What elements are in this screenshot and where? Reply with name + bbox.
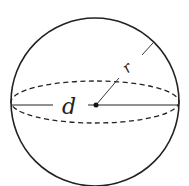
radius-line-upper: [142, 43, 153, 55]
sphere-outline: [11, 18, 179, 186]
radius-label: r: [119, 58, 137, 77]
sphere-diagram: d r: [0, 0, 189, 186]
radius-line-lower: [96, 78, 119, 105]
equator-ellipse: [11, 81, 179, 123]
diameter-label: d: [62, 94, 76, 119]
